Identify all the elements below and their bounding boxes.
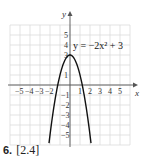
x-tick-label: −5: [15, 87, 24, 96]
y-tick-label: −1: [61, 91, 70, 100]
chart: x y −5−4−3−212345 5431−1−2−3−4−5 y = −2x…: [0, 0, 145, 161]
x-axis-label: x: [134, 88, 139, 98]
y-tick-label: −3: [61, 111, 70, 120]
y-tick-label: −2: [61, 101, 70, 110]
exercise-number: 6.: [3, 144, 12, 156]
x-tick-label: 1: [78, 87, 82, 96]
x-tick-label: −3: [35, 87, 44, 96]
section-reference: [2.4]: [16, 143, 39, 157]
x-tick-label: 3: [98, 87, 102, 96]
y-tick-label: 1: [64, 71, 68, 80]
y-tick-label: −5: [61, 131, 70, 140]
x-tick-label: −4: [25, 87, 34, 96]
y-tick-label: 4: [64, 41, 68, 50]
y-axis-label: y: [61, 9, 66, 19]
x-axis-arrow-icon: [133, 83, 138, 88]
x-tick-label: −2: [45, 87, 54, 96]
y-tick-labels: 5431−1−2−3−4−5: [61, 31, 70, 140]
equation-label: y = −2x² + 3: [73, 40, 123, 51]
y-tick-label: −4: [61, 121, 70, 130]
x-tick-label: 2: [88, 87, 92, 96]
x-tick-label: 4: [108, 87, 112, 96]
x-tick-label: 5: [118, 87, 122, 96]
caption: 6.[2.4]: [3, 143, 39, 158]
y-tick-label: 5: [64, 31, 68, 40]
y-axis-arrow-icon: [68, 11, 73, 16]
